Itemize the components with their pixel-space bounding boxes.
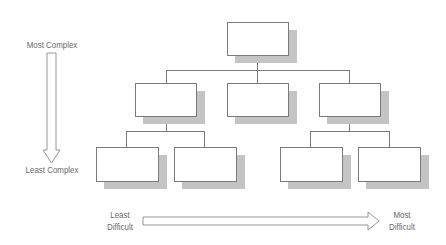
right-drop-a xyxy=(310,131,311,147)
level2-bus xyxy=(166,70,350,71)
root-box xyxy=(227,22,289,56)
right-drop-b xyxy=(389,131,390,147)
level3-box-1 xyxy=(96,147,159,182)
left-drop-b xyxy=(204,131,205,147)
level3-box-3 xyxy=(280,147,343,182)
left-bus xyxy=(126,131,205,132)
down-arrow-icon xyxy=(43,53,60,163)
level3-box-2 xyxy=(174,147,237,182)
right-bus xyxy=(310,131,390,132)
level2-drop-center xyxy=(257,70,258,83)
level2-drop-right xyxy=(349,70,350,83)
level2-drop-left xyxy=(166,70,167,83)
left-drop-a xyxy=(126,131,127,147)
right-arrow-icon xyxy=(143,212,379,230)
level2-center-box xyxy=(227,83,289,117)
level2-right-box xyxy=(319,83,381,117)
level2-left-box xyxy=(135,83,197,117)
level3-box-4 xyxy=(358,147,421,182)
